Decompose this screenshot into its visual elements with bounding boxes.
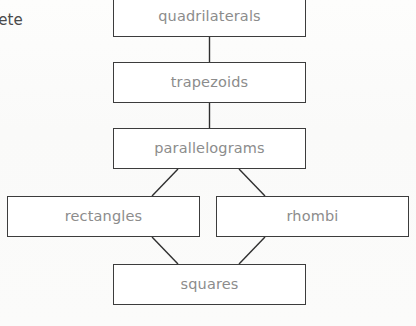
node-box-quadrilaterals[interactable]: quadrilaterals <box>113 0 306 37</box>
node-box-rectangles[interactable]: rectangles <box>7 196 200 237</box>
node-box-trapezoids[interactable]: trapezoids <box>113 62 306 103</box>
node-box-rhombi[interactable]: rhombi <box>216 196 409 237</box>
edge-rectangles-to-squares <box>152 237 178 264</box>
edge-parallelograms-to-rhombi <box>239 169 265 196</box>
node-label-rhombi: rhombi <box>286 209 338 224</box>
edge-rhombi-to-squares <box>239 237 265 264</box>
edge-parallelograms-to-rectangles <box>152 169 178 196</box>
node-label-parallelograms: parallelograms <box>154 141 265 156</box>
node-box-squares[interactable]: squares <box>113 264 306 305</box>
diagram-canvas: lete quadrilateralstrapezoidsparallelogr… <box>0 0 416 326</box>
node-label-squares: squares <box>180 277 238 292</box>
node-box-parallelograms[interactable]: parallelograms <box>113 128 306 169</box>
node-label-quadrilaterals: quadrilaterals <box>158 9 261 24</box>
node-label-rectangles: rectangles <box>65 209 143 224</box>
node-label-trapezoids: trapezoids <box>171 75 248 90</box>
